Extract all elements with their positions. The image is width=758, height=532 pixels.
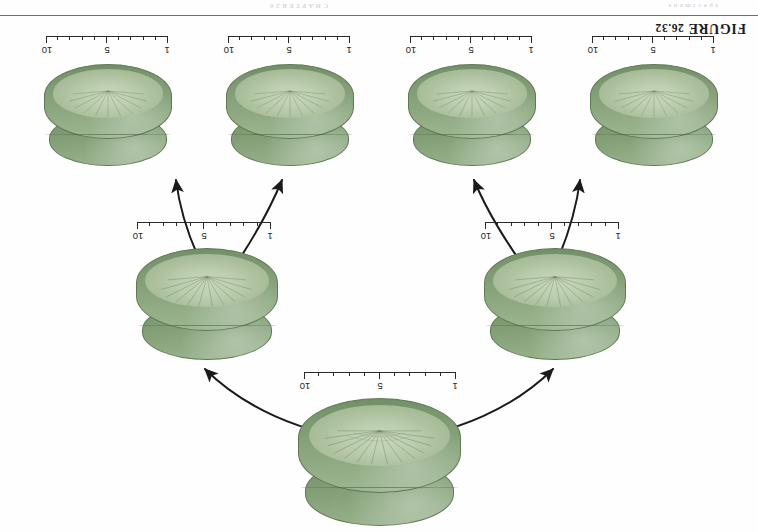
specimen-top-4 bbox=[44, 64, 172, 166]
scanned-page: C H A P T E R 2 6 s p e c i m e n s FIGU… bbox=[0, 0, 758, 532]
specimen-radial-pattern bbox=[137, 249, 277, 330]
specimen-lower-body bbox=[226, 64, 354, 139]
scale-top-1-label-1: 1 bbox=[710, 45, 715, 56]
specimen-mid-right bbox=[484, 248, 626, 360]
scale-top-2-label-10: 10 bbox=[406, 45, 417, 56]
specimen-lower-body bbox=[136, 248, 278, 331]
scale-top-4-label-5: 5 bbox=[104, 45, 109, 56]
specimen-lower-body bbox=[408, 64, 536, 139]
bleed-text-right: s p e c i m e n s bbox=[668, 2, 718, 10]
specimen-lower-body bbox=[298, 398, 461, 493]
scale-top-3: 1 5 10 bbox=[228, 36, 350, 56]
specimen-radial-pattern bbox=[299, 399, 460, 492]
scale-top-2-label-1: 1 bbox=[528, 45, 533, 56]
specimen-lower-body bbox=[44, 64, 172, 139]
header-rule bbox=[0, 15, 758, 16]
figure-number: 26.32 bbox=[655, 22, 684, 34]
scale-bottom-label-5: 5 bbox=[377, 381, 382, 392]
scale-mid-left-label-1: 1 bbox=[267, 231, 272, 242]
scale-mid-left-label-10: 10 bbox=[133, 231, 144, 242]
specimen-bottom bbox=[298, 398, 461, 526]
scale-top-2: 1 5 10 bbox=[410, 36, 532, 56]
specimen-radial-pattern bbox=[409, 65, 535, 138]
scale-top-4-label-1: 1 bbox=[164, 45, 169, 56]
figure-label-prefix: FIGURE bbox=[688, 21, 746, 36]
specimen-radial-pattern bbox=[45, 65, 171, 138]
page-flip-container: C H A P T E R 2 6 s p e c i m e n s FIGU… bbox=[0, 0, 758, 532]
specimen-radial-pattern bbox=[591, 65, 717, 138]
scale-top-3-label-1: 1 bbox=[346, 45, 351, 56]
scale-top-3-label-10: 10 bbox=[224, 45, 235, 56]
specimen-top-3 bbox=[226, 64, 354, 166]
scale-top-1-label-10: 10 bbox=[588, 45, 599, 56]
bleed-text-left: C H A P T E R 2 6 bbox=[270, 2, 328, 10]
scale-mid-right-label-10: 10 bbox=[481, 231, 492, 242]
specimen-top-1 bbox=[590, 64, 718, 166]
scale-bottom: 1 5 10 bbox=[304, 372, 456, 392]
scale-top-3-label-5: 5 bbox=[286, 45, 291, 56]
scale-top-4: 1 5 10 bbox=[46, 36, 168, 56]
scale-bottom-label-1: 1 bbox=[452, 381, 457, 392]
specimen-mid-left bbox=[136, 248, 278, 360]
specimen-top-2 bbox=[408, 64, 536, 166]
specimen-lower-body bbox=[590, 64, 718, 139]
scale-mid-right: 1 5 10 bbox=[485, 222, 619, 242]
scale-mid-left: 1 5 10 bbox=[137, 222, 271, 242]
figure-label: FIGURE 26.32 bbox=[655, 20, 746, 36]
scale-top-1: 1 5 10 bbox=[592, 36, 714, 56]
specimen-radial-pattern bbox=[227, 65, 353, 138]
scale-top-2-label-5: 5 bbox=[468, 45, 473, 56]
scale-bottom-label-10: 10 bbox=[300, 381, 311, 392]
specimen-radial-pattern bbox=[485, 249, 625, 330]
scale-top-4-label-10: 10 bbox=[42, 45, 53, 56]
scale-mid-right-label-1: 1 bbox=[615, 231, 620, 242]
specimen-lower-body bbox=[484, 248, 626, 331]
scale-top-1-label-5: 5 bbox=[650, 45, 655, 56]
scale-mid-left-label-5: 5 bbox=[201, 231, 206, 242]
scale-mid-right-label-5: 5 bbox=[549, 231, 554, 242]
specimen-suture-line bbox=[300, 487, 460, 488]
